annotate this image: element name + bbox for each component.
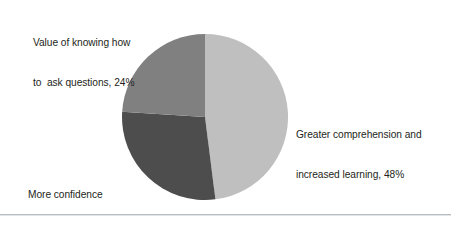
pie-chart-figure: Value of knowing how to ask questions, 2… [0,0,451,226]
pie-label-greater-comprehension-line1: Greater comprehension and [296,128,422,141]
pie-label-value-of-knowing-line1: Value of knowing how [33,36,134,49]
pie-chart-graphic [118,30,292,204]
pie-label-value-of-knowing-line2: to ask questions, 24% [33,76,134,89]
pie-slice-value-of-knowing [122,34,205,117]
pie-label-more-confidence-line1: More confidence [28,188,137,201]
pie-label-greater-comprehension-line2: increased learning, 48% [296,168,422,181]
pie-label-more-confidence: More confidence and independence, 28% [28,161,137,226]
pie-label-value-of-knowing: Value of knowing how to ask questions, 2… [33,9,134,116]
bottom-divider-shadow [0,215,451,216]
pie-label-greater-comprehension: Greater comprehension and increased lear… [296,101,422,208]
pie-slice-greater-comprehension [205,34,288,199]
